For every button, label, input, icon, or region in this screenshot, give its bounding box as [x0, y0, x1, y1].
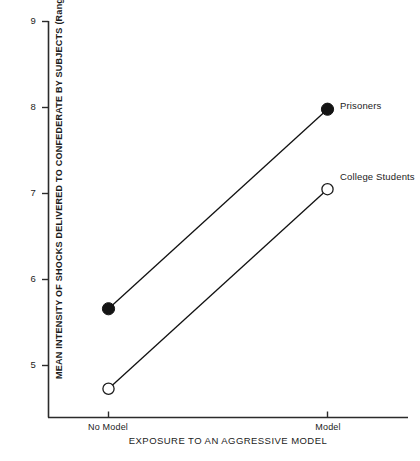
y-tick-label-6: 6 — [22, 273, 36, 284]
data-point-college-students-no-model — [103, 383, 114, 394]
y-tick-label-7: 7 — [22, 187, 36, 198]
data-point-prisoners-no-model — [102, 303, 114, 315]
x-tick-label-model: Model — [282, 422, 374, 432]
x-tick-label-no-model: No Model — [58, 422, 158, 432]
series-annotation-college-students: College Students — [340, 171, 415, 182]
y-tick-label-8: 8 — [22, 101, 36, 112]
y-tick-label-5: 5 — [22, 359, 36, 370]
y-tick-label-9: 9 — [22, 15, 36, 26]
data-point-prisoners-model — [321, 103, 333, 115]
x-axis-title: EXPOSURE TO AN AGGRESSIVE MODEL — [48, 435, 408, 446]
line-chart-figure: 9 8 7 6 5 No Model Model MEAN INTENSITY … — [0, 0, 420, 461]
series-line-college-students — [109, 189, 328, 389]
series-line-prisoners — [109, 109, 328, 309]
y-axis-title: MEAN INTENSITY OF SHOCKS DELIVERED TO CO… — [54, 49, 64, 379]
data-point-college-students-model — [322, 184, 333, 195]
series-annotation-prisoners: Prisoners — [340, 100, 381, 111]
